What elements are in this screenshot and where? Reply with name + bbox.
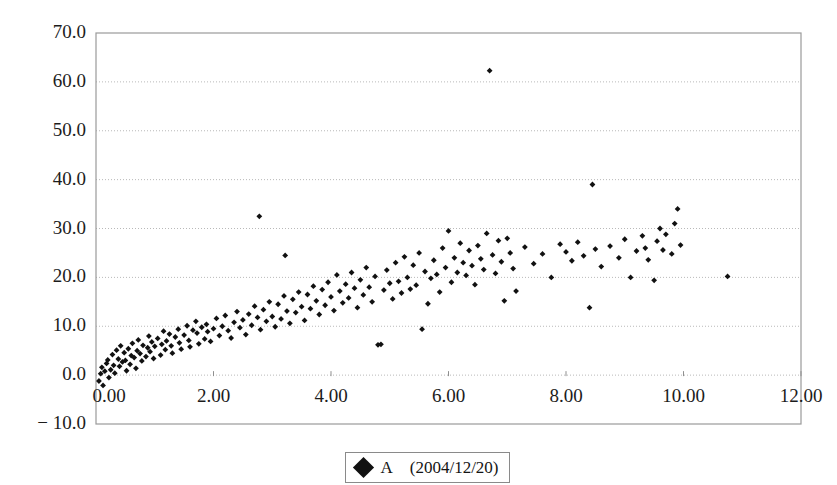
data-point (127, 361, 133, 367)
data-point (669, 251, 675, 257)
data-point (363, 265, 369, 271)
data-point (219, 323, 225, 329)
data-point (404, 274, 410, 280)
data-point (228, 335, 234, 341)
data-point (413, 282, 419, 288)
data-point (481, 267, 487, 273)
data-point (454, 270, 460, 276)
data-point (369, 299, 375, 305)
data-point (161, 328, 167, 334)
data-point (202, 336, 208, 342)
data-point (316, 312, 322, 318)
data-point (457, 240, 463, 246)
data-point (443, 265, 449, 271)
data-point (172, 334, 178, 340)
data-point (360, 292, 366, 298)
data-point (334, 272, 340, 278)
data-point (407, 286, 413, 292)
data-point (194, 330, 200, 336)
data-point (510, 266, 516, 272)
y-axis-tick-label: 50.0 (2, 119, 86, 141)
data-point (164, 338, 170, 344)
data-point (569, 258, 575, 264)
data-point (124, 368, 130, 374)
data-point (639, 233, 645, 239)
data-point (278, 316, 284, 322)
data-point (657, 226, 663, 232)
data-point (146, 333, 152, 339)
data-point (622, 236, 628, 242)
data-point (175, 326, 181, 332)
data-point (504, 235, 510, 241)
data-point (449, 279, 455, 285)
data-point (186, 338, 192, 344)
data-point (255, 315, 261, 321)
data-point (205, 329, 211, 335)
data-point (422, 269, 428, 275)
data-point (222, 313, 228, 319)
data-point (159, 341, 165, 347)
y-axis-tick-label: 20.0 (2, 265, 86, 287)
data-point (290, 296, 296, 302)
data-point (522, 244, 528, 250)
data-point (581, 253, 587, 259)
data-point (587, 305, 593, 311)
data-point (660, 247, 666, 253)
data-point (299, 304, 305, 310)
data-point (187, 344, 193, 350)
data-point (121, 350, 127, 356)
data-point (169, 350, 175, 356)
data-point (155, 336, 161, 342)
data-point (281, 293, 287, 299)
data-point (642, 245, 648, 251)
data-point (269, 314, 275, 320)
data-point (208, 339, 214, 345)
data-point (472, 282, 478, 288)
data-point (118, 343, 124, 349)
data-point (501, 298, 507, 304)
data-point (466, 248, 472, 254)
data-point (167, 331, 173, 337)
data-point (162, 347, 168, 353)
data-point (469, 263, 475, 269)
data-point (352, 285, 358, 291)
data-point (108, 367, 114, 373)
data-point (460, 260, 466, 266)
y-axis-tick-label: − 10.0 (2, 412, 86, 434)
data-point (387, 280, 393, 286)
data-point (177, 340, 183, 346)
x-axis-tick-label: 2.00 (174, 385, 254, 407)
data-point (181, 332, 187, 338)
data-point (112, 370, 118, 376)
data-point (337, 288, 343, 294)
y-axis-tick-label: 40.0 (2, 168, 86, 190)
data-point (151, 356, 157, 362)
data-point (139, 358, 145, 364)
data-point (258, 327, 264, 333)
y-axis-tick-label: 10.0 (2, 314, 86, 336)
data-point (284, 308, 290, 314)
data-point (487, 68, 493, 74)
data-point (531, 261, 537, 267)
data-point (607, 243, 613, 249)
data-point (513, 288, 519, 294)
data-point (493, 271, 499, 277)
data-point (287, 320, 293, 326)
data-point (110, 352, 116, 358)
data-point (168, 343, 174, 349)
data-point (135, 337, 141, 343)
data-point (313, 298, 319, 304)
data-point (437, 289, 443, 295)
data-point (130, 340, 136, 346)
data-point (478, 256, 484, 262)
data-point (325, 279, 331, 285)
data-point (133, 365, 139, 371)
x-axis-tick-label: 6.00 (409, 385, 489, 407)
data-point (575, 239, 581, 245)
data-point (725, 273, 731, 279)
data-point (125, 346, 131, 352)
scatter-chart: 70.060.050.040.030.020.010.00.0− 10.0 0.… (0, 0, 837, 485)
data-point (190, 327, 196, 333)
data-point (331, 308, 337, 314)
data-point (349, 270, 355, 276)
